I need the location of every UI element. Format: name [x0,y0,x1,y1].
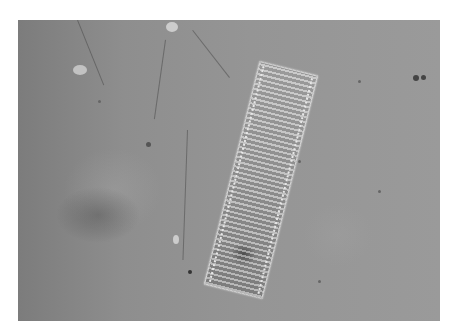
particle [73,65,87,75]
fiber [154,40,166,119]
fiber [192,30,230,78]
particle [188,270,192,274]
particle [98,100,101,103]
particle [421,75,426,80]
particle [378,190,381,193]
particle [173,235,179,244]
fiber [77,20,104,85]
diatom-frustule [204,61,318,299]
particle [166,22,178,32]
particle [413,75,419,81]
fiber [182,130,188,260]
particle [146,142,151,147]
particle [318,280,321,283]
particle [298,160,301,163]
particle [358,80,361,83]
micrograph-photo [18,20,440,321]
